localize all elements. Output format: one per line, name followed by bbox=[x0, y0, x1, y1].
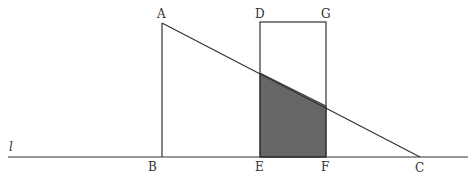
label-C: C bbox=[415, 161, 424, 173]
shaded-region bbox=[260, 73, 326, 157]
label-line-l: l bbox=[9, 140, 13, 154]
label-F: F bbox=[321, 160, 329, 173]
label-D: D bbox=[255, 7, 265, 21]
label-A: A bbox=[156, 7, 166, 21]
geometry-diagram: l A B C D E F G bbox=[0, 0, 475, 173]
label-E: E bbox=[255, 160, 264, 173]
label-B: B bbox=[148, 160, 157, 173]
label-G: G bbox=[321, 7, 331, 21]
